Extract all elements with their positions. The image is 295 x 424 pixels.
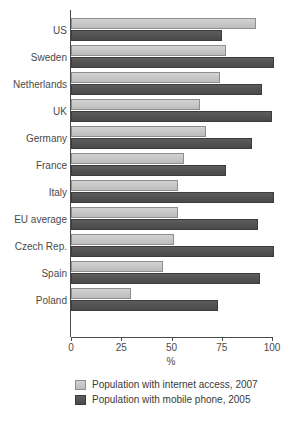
legend-item-internet: Population with internet access, 2007 (75, 378, 258, 391)
bar (71, 99, 200, 110)
x-axis-title: % (167, 356, 176, 367)
x-tick-label: 50 (166, 342, 177, 353)
x-tick-label: 100 (264, 342, 281, 353)
bar-group (71, 152, 272, 179)
bar (71, 165, 226, 176)
bar (71, 207, 178, 218)
bar-group (71, 125, 272, 152)
chart-legend: Population with internet access, 2007 Po… (75, 378, 258, 408)
x-tick-label: 75 (216, 342, 227, 353)
category-label: France (0, 160, 67, 171)
category-label: EU average (0, 214, 67, 225)
x-tick (272, 337, 273, 341)
legend-swatch-dark (75, 395, 86, 405)
category-label: Spain (0, 268, 67, 279)
legend-swatch-light (75, 380, 86, 390)
bar (71, 192, 274, 203)
legend-label-internet: Population with internet access, 2007 (92, 379, 258, 390)
bar-group (71, 233, 272, 260)
bar-group (71, 98, 272, 125)
bar-group (71, 287, 272, 314)
bar (71, 288, 131, 299)
bar (71, 18, 256, 29)
bar-group (71, 71, 272, 98)
bar (71, 234, 174, 245)
x-tick-label: 0 (68, 342, 74, 353)
bar-group (71, 206, 272, 233)
x-tick (172, 337, 173, 341)
category-label: Sweden (0, 52, 67, 63)
bar (71, 138, 252, 149)
bar (71, 153, 184, 164)
bar (71, 111, 272, 122)
bar (71, 180, 178, 191)
category-axis-labels: USSwedenNetherlandsUKGermanyFranceItalyE… (0, 10, 67, 337)
plot-area (71, 10, 272, 337)
bar (71, 30, 222, 41)
bar (71, 273, 260, 284)
bar-group (71, 44, 272, 71)
bar (71, 261, 163, 272)
bar (71, 57, 274, 68)
category-label: Italy (0, 187, 67, 198)
bar (71, 45, 226, 56)
category-label: US (0, 25, 67, 36)
x-tick-label: 25 (116, 342, 127, 353)
bar (71, 72, 220, 83)
bar-group (71, 260, 272, 287)
bar (71, 300, 218, 311)
x-tick (121, 337, 122, 341)
legend-item-mobile: Population with mobile phone, 2005 (75, 393, 258, 406)
category-label: Poland (0, 295, 67, 306)
category-label: Czech Rep. (0, 241, 67, 252)
category-label: Germany (0, 133, 67, 144)
category-label: UK (0, 106, 67, 117)
bar-group (71, 17, 272, 44)
x-tick (71, 337, 72, 341)
bar (71, 84, 262, 95)
category-label: Netherlands (0, 79, 67, 90)
bar-chart: USSwedenNetherlandsUKGermanyFranceItalyE… (0, 0, 295, 424)
bar-group (71, 179, 272, 206)
legend-label-mobile: Population with mobile phone, 2005 (92, 394, 250, 405)
bar (71, 219, 258, 230)
bar (71, 126, 206, 137)
bar (71, 246, 274, 257)
x-tick (222, 337, 223, 341)
